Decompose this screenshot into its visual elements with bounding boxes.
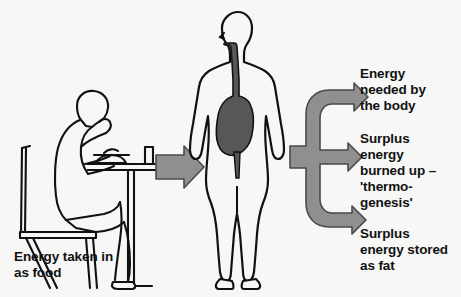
drinking-glass — [145, 147, 153, 164]
feet — [216, 279, 260, 289]
three-way-branching-arrow — [290, 83, 368, 234]
caption-surplus-energy-burned: Surplus energy burned up – 'thermo- gene… — [360, 131, 436, 211]
caption-energy-taken-in: Energy taken in as food — [14, 249, 113, 281]
caption-surplus-energy-stored-as-fat: Surplus energy stored as fat — [360, 226, 448, 274]
standing-human-body — [190, 12, 284, 289]
energy-balance-figure: Energy taken in as food Energy needed by… — [0, 0, 461, 297]
caption-energy-needed-by-body: Energy needed by the body — [360, 66, 426, 114]
